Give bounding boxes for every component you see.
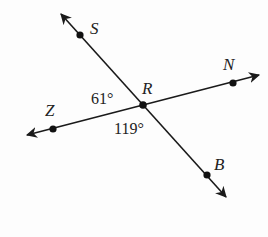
point-B [203, 171, 210, 178]
point-S [76, 31, 83, 38]
label-R: R [141, 79, 153, 98]
point-N [229, 79, 236, 86]
angle-label-61: 61° [91, 90, 113, 107]
label-Z: Z [45, 101, 55, 120]
geometry-diagram: S R N Z B 61° 119° [0, 0, 268, 237]
angle-label-119: 119° [114, 120, 144, 137]
point-R [139, 101, 147, 109]
label-N: N [222, 55, 236, 74]
label-B: B [214, 155, 225, 174]
point-Z [49, 125, 56, 132]
label-S: S [90, 19, 99, 38]
diagram-canvas: S R N Z B 61° 119° [0, 0, 268, 237]
